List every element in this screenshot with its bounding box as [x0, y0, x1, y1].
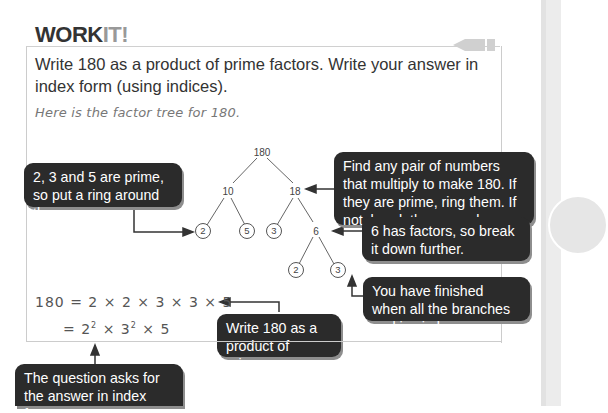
- callout-finished: You have finished when all the branches …: [363, 277, 530, 321]
- tree-node-6: 6: [313, 226, 319, 237]
- callout-find-pair: Find any pair of numbers that multiply t…: [334, 152, 534, 225]
- eq2-prefix: = 2: [63, 321, 91, 337]
- tree-node-18: 18: [289, 186, 300, 197]
- eq2-mid: × 3: [97, 321, 131, 337]
- eq2-suffix: × 5: [137, 321, 171, 337]
- equation-line-1: 180 = 2 × 2 × 3 × 3 × 5: [35, 294, 232, 310]
- callout-index-form: The question asks for the answer in inde…: [15, 364, 183, 406]
- callout-six-factors: 6 has factors, so break it down further.: [362, 217, 530, 261]
- tree-ring-3b: 3: [330, 262, 346, 278]
- callout-write-product: Write 180 as a product of primes.: [217, 314, 341, 357]
- tree-ring-5: 5: [239, 223, 255, 239]
- tree-ring-2b: 2: [288, 262, 304, 278]
- tree-node-10: 10: [222, 186, 233, 197]
- equation-line-2: = 22 × 32 × 5: [63, 321, 170, 337]
- tree-node-root: 180: [254, 147, 271, 158]
- callout-primes: 2, 3 and 5 are prime, so put a ring arou…: [24, 163, 182, 207]
- tree-ring-2: 2: [195, 223, 211, 239]
- box-bottom-border: [26, 341, 502, 342]
- tree-ring-3: 3: [266, 223, 282, 239]
